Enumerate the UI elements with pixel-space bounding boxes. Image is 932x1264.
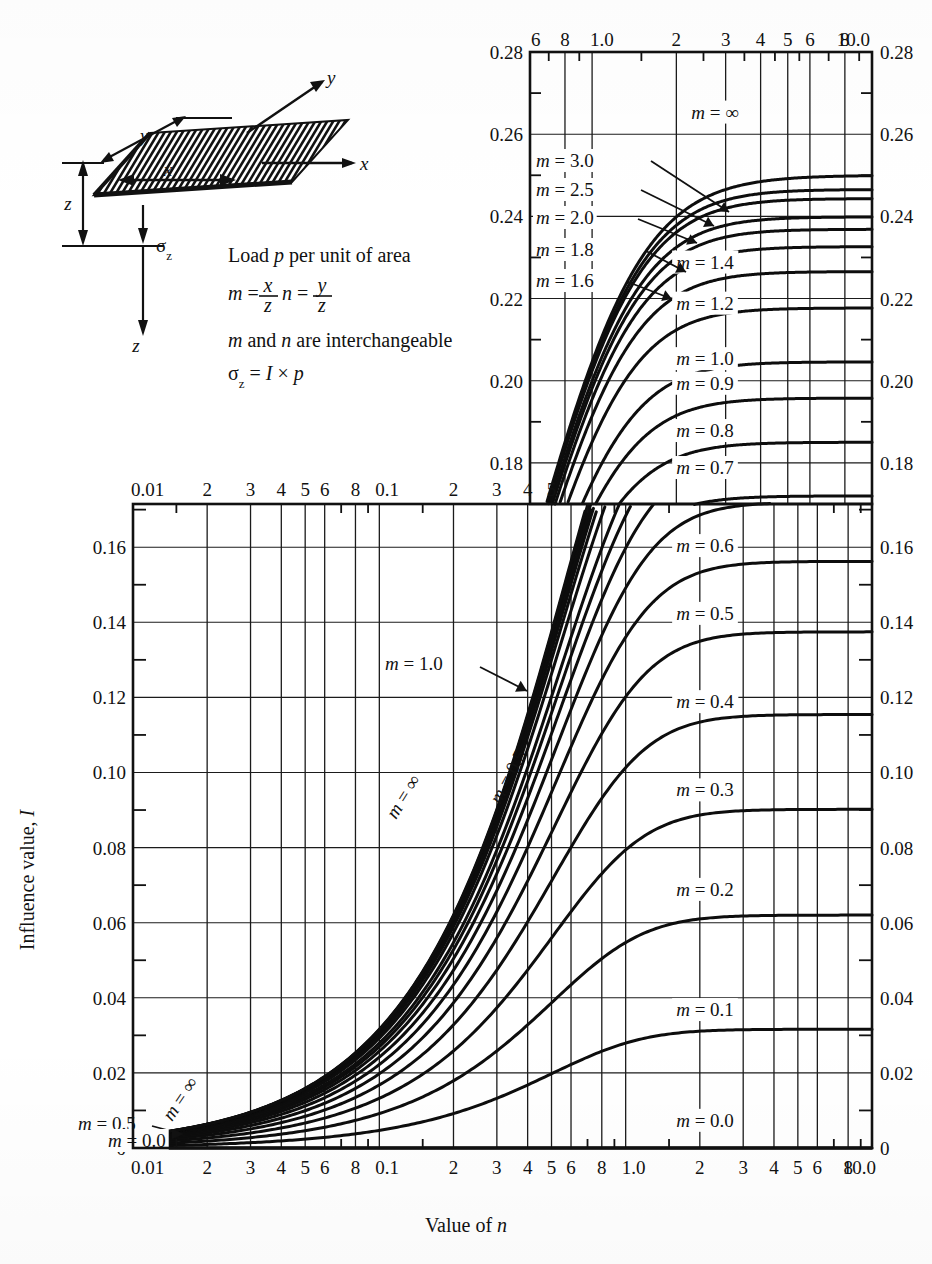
- lower-xtick-label-bottom: 4: [523, 1157, 533, 1178]
- curve-label-upper-m-2p0: m = 2.0: [536, 207, 594, 228]
- curve-label-lower-m-0p4: m = 0.4: [676, 691, 734, 712]
- lower-xtick-label-bottom: 3: [246, 1157, 256, 1178]
- curve-label-m-0p8: m = 0.8: [676, 420, 734, 441]
- lower-xtick-label-bottom: 1.0: [622, 1157, 646, 1178]
- lower-xtick-label-top: 0.01: [131, 479, 164, 500]
- lower-xtick-label-bottom: 2: [449, 1157, 459, 1178]
- legend-line-interchangeable: m and n are interchangeable: [228, 329, 452, 352]
- lower-ytick-label-left: 0.04: [93, 988, 127, 1009]
- lower-xtick-label-bottom: 10.0: [843, 1157, 876, 1178]
- axis-label-z: z: [131, 335, 140, 356]
- curve-label-m-0p9: m = 0.9: [676, 373, 734, 394]
- lower-xtick-label-top: 3: [492, 479, 502, 500]
- lower-xtick-label-bottom: 5: [300, 1157, 310, 1178]
- lower-xtick-label-bottom: 2: [695, 1157, 705, 1178]
- influence-value-chart: 681.023456810.00.280.260.240.220.200.180…: [0, 0, 932, 1264]
- lower-xtick-label-top: 5: [300, 479, 310, 500]
- figure-root: 681.023456810.00.280.260.240.220.200.180…: [0, 0, 932, 1264]
- diagram-legend-layer: yxyxzσzzLoad p per unit of aream =xzn =y…: [10, 67, 452, 391]
- legend-formula-m: m =: [228, 282, 259, 304]
- lower-ytick-label-right: 0.08: [880, 838, 913, 859]
- lower-ytick-label-right: 0: [880, 1138, 890, 1159]
- curve-label-m-1p0: m = 1.0: [676, 348, 734, 369]
- lower-xtick-label-bottom: 8: [351, 1157, 361, 1178]
- axis-z-arrowhead: [138, 320, 148, 336]
- leader-m-3p0: [651, 161, 729, 212]
- lower-xtick-label-top: 2: [449, 479, 459, 500]
- curve-label-m-0p7: m = 0.7: [676, 457, 734, 478]
- lower-xtick-label-top: 4: [523, 479, 533, 500]
- lower-plot-frame: [133, 504, 872, 1148]
- lower-curve-m-2: [133, 505, 591, 1137]
- dim-z-arrowhead-2: [78, 230, 88, 246]
- lower-xtick-label-top: 3: [246, 479, 256, 500]
- lower-ytick-label-left: 0.08: [93, 838, 126, 859]
- lower-ytick-label-right: 0.14: [880, 612, 914, 633]
- lower-ytick-label-left: 0.14: [93, 612, 127, 633]
- lower-ytick-label-left: 0.12: [93, 687, 126, 708]
- lower-xtick-label-bottom: 3: [492, 1157, 502, 1178]
- upper-xtick-label: 5: [783, 29, 793, 50]
- lower-xtick-label-bottom: 2: [202, 1157, 212, 1178]
- upper-xtick-label: 10.0: [837, 29, 870, 50]
- lower-xtick-label-bottom: 6: [320, 1157, 330, 1178]
- legend-formula-m-numerator: x: [263, 274, 273, 296]
- lower-xtick-label-top: 0.1: [375, 479, 399, 500]
- curve-label-lower-m-inf-mid: m = ∞: [382, 771, 425, 822]
- dim-y-arrowhead-1: [100, 152, 114, 163]
- lower-ytick-label-left: 0.02: [93, 1063, 126, 1084]
- upper-xtick-label: 6: [531, 29, 541, 50]
- sigma-z-label: σz: [156, 235, 172, 263]
- upper-ytick-label-right: 0.28: [880, 42, 913, 63]
- upper-ytick-label-right: 0.18: [880, 453, 913, 474]
- upper-ytick-label-right: 0.22: [880, 289, 913, 310]
- lower-ytick-label-right: 0.10: [880, 762, 913, 783]
- lower-curve-m-1.6: [133, 508, 593, 1136]
- lower-xtick-label-bottom: 0.1: [375, 1157, 399, 1178]
- dim-label-x: x: [163, 159, 173, 180]
- curve-label-upper-m-1p6: m = 1.6: [536, 270, 594, 291]
- lower-xtick-label-top: 2: [202, 479, 212, 500]
- lower-xtick-label-bottom: 5: [793, 1157, 803, 1178]
- legend-formula-n-denominator: z: [317, 294, 326, 316]
- curve-label-lower-m-0p1: m = 0.1: [676, 999, 734, 1020]
- lower-ytick-label-right: 0.02: [880, 1063, 913, 1084]
- curve-label-bottom-m-inf: m = ∞: [158, 1073, 202, 1124]
- upper-xtick-label: 4: [756, 29, 766, 50]
- axis-y-arrowhead: [310, 80, 325, 92]
- curve-label-upper-m-3p0: m = 3.0: [536, 150, 594, 171]
- dim-label-z: z: [63, 193, 72, 214]
- legend-line-sigma: σz = I × p: [228, 362, 304, 391]
- upper-ytick-label-left: 0.28: [490, 42, 523, 63]
- lower-xtick-label-bottom: 4: [277, 1157, 287, 1178]
- upper-ytick-label-left: 0.26: [490, 124, 523, 145]
- lower-xtick-label-bottom: 8: [597, 1157, 607, 1178]
- lower-xtick-label-top: 8: [351, 479, 361, 500]
- lower-curve-m-1.8: [133, 510, 591, 1137]
- curve-label-m-0p6: m = 0.6: [676, 535, 734, 556]
- upper-ytick-label-right: 0.26: [880, 124, 913, 145]
- curve-label-lower-m-1p0: m = 1.0: [385, 653, 443, 674]
- curve-label-lower-m-0p5: m = 0.5: [676, 603, 734, 624]
- legend-formula-m-denominator: z: [263, 294, 272, 316]
- curve-labels-lower: m = 0.5m = 0.4m = 0.3m = 0.2m = 0.1m = 0…: [672, 602, 738, 1132]
- lower-xtick-label-top: 6: [320, 479, 330, 500]
- upper-ytick-label-right: 0.24: [880, 206, 914, 227]
- curve-label-m-∞: m = ∞: [691, 102, 739, 123]
- upper-ytick-label-right: 0.20: [880, 371, 913, 392]
- lower-ytick-label-left: 0.06: [93, 913, 126, 934]
- upper-ytick-label-left: 0.20: [490, 371, 523, 392]
- lower-ytick-label-right: 0.06: [880, 913, 913, 934]
- lower-xtick-label-top: 5: [547, 479, 557, 500]
- lower-ytick-label-left: 0.16: [93, 537, 126, 558]
- sigma-z-arrowhead: [138, 228, 148, 244]
- upper-xtick-label: 2: [672, 29, 682, 50]
- lower-curve-m-0.5: [133, 632, 872, 1141]
- lower-xtick-label-bottom: 6: [566, 1157, 576, 1178]
- lower-ytick-label-left: 0.10: [93, 762, 126, 783]
- lower-ytick-label-right: 0.12: [880, 687, 913, 708]
- axis-x-arrowhead: [342, 158, 356, 168]
- dim-label-y: y: [138, 125, 149, 146]
- upper-xtick-label: 6: [805, 29, 815, 50]
- upper-xtick-label: 1.0: [590, 29, 614, 50]
